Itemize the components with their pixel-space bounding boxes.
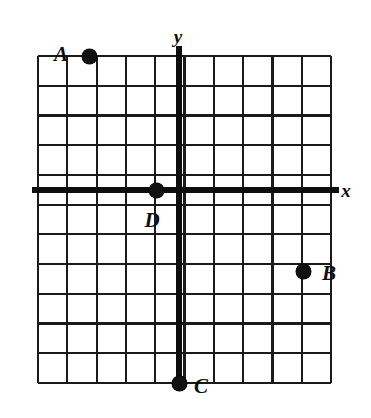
- coordinate-grid-figure: A B C D x y: [0, 0, 371, 418]
- point-label-b: B: [322, 263, 336, 284]
- point-dot-a: [82, 49, 97, 64]
- point-label-a: A: [54, 44, 68, 65]
- point-dot-b: [296, 264, 311, 279]
- x-axis-label: x: [341, 181, 351, 200]
- point-dot-d: [149, 183, 164, 198]
- point-label-d: D: [144, 210, 159, 231]
- y-axis-label: y: [174, 27, 182, 46]
- point-label-c: C: [194, 376, 208, 397]
- point-dot-c: [172, 376, 187, 391]
